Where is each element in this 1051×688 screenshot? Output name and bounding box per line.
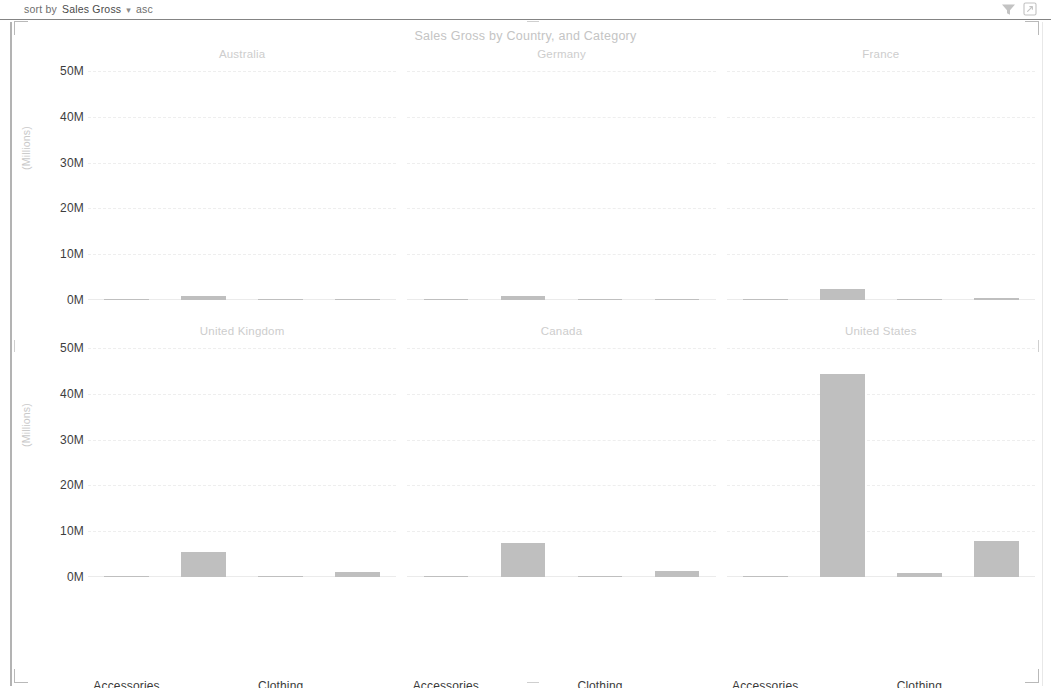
bar[interactable] <box>578 299 623 300</box>
bar[interactable] <box>897 299 942 300</box>
bar-slot <box>958 348 1035 577</box>
facet-panel[interactable]: Canada <box>407 325 715 577</box>
bar[interactable] <box>655 571 700 577</box>
bar[interactable] <box>335 299 380 300</box>
bar[interactable] <box>820 289 865 300</box>
facet-row: (Millions)50M40M30M20M10M0MUnited Kingdo… <box>0 325 1051 602</box>
bar-group <box>88 71 396 300</box>
y-axis-tick-label: 40M <box>60 110 84 124</box>
y-axis-tick-label: 10M <box>60 524 84 538</box>
y-axis-tick-label: 30M <box>60 156 84 170</box>
focus-mode-icon[interactable] <box>1023 2 1037 16</box>
bar[interactable] <box>501 296 546 300</box>
resize-handle-top-center[interactable] <box>527 21 539 22</box>
facet-panel[interactable]: Germany <box>407 48 715 300</box>
bar-group <box>407 71 715 300</box>
facet-plot-area <box>727 348 1035 577</box>
bar[interactable] <box>974 541 1019 577</box>
x-axis-tick-label: Clothing <box>242 679 319 688</box>
bar[interactable] <box>258 576 303 577</box>
bar-slot <box>242 71 319 300</box>
facet-row: (Millions)50M40M30M20M10M0MAustraliaGerm… <box>0 48 1051 325</box>
facet-panel[interactable]: United States <box>727 325 1035 577</box>
bar-slot <box>639 71 716 300</box>
y-axis-ticks: 50M40M30M20M10M0M <box>28 348 84 577</box>
bar-slot <box>242 348 319 577</box>
x-axis-tick-label: Accessories <box>407 679 484 688</box>
bar[interactable] <box>655 299 700 300</box>
bar[interactable] <box>104 576 149 577</box>
visual-header-icons <box>1001 2 1037 16</box>
bar-slot <box>165 71 242 300</box>
y-axis-tick-label: 50M <box>60 64 84 78</box>
facet-plot-area <box>88 71 396 300</box>
bar-slot <box>561 71 638 300</box>
x-axis-tick-label: Accessories <box>88 679 165 688</box>
sort-field-value[interactable]: Sales Gross <box>62 3 121 15</box>
bar[interactable] <box>104 299 149 300</box>
sort-direction-value[interactable]: asc <box>136 3 153 15</box>
sort-bar: sort bySales Gross▾asc <box>0 0 1051 20</box>
bar-slot <box>804 348 881 577</box>
chart-title: Sales Gross by Country, and Category <box>0 29 1051 43</box>
facet-plot-area <box>407 348 715 577</box>
x-axis-group: AccessoriesBikesClothingComponents <box>727 677 1035 688</box>
facet-plot-area <box>88 348 396 577</box>
bar-slot <box>804 71 881 300</box>
y-axis-tick-label: 20M <box>60 478 84 492</box>
bar[interactable] <box>335 572 380 577</box>
bar-slot <box>165 348 242 577</box>
bar-slot <box>407 348 484 577</box>
facet-panel[interactable]: United Kingdom <box>88 325 396 577</box>
y-axis-tick-label: 0M <box>67 293 84 307</box>
facet-panel-title: United States <box>727 325 1035 337</box>
bar[interactable] <box>897 573 942 577</box>
facet-plot-area <box>407 71 715 300</box>
facet-panel-title: United Kingdom <box>88 325 396 337</box>
sort-by-control[interactable]: sort bySales Gross▾asc <box>24 3 153 15</box>
facet-panel-title: France <box>727 48 1035 60</box>
bar[interactable] <box>501 543 546 577</box>
bar[interactable] <box>258 299 303 300</box>
bar-slot <box>88 348 165 577</box>
bar[interactable] <box>743 576 788 577</box>
facet-plot-area <box>727 71 1035 300</box>
bar[interactable] <box>424 299 469 300</box>
bar-slot <box>407 71 484 300</box>
sort-by-label: sort by <box>24 3 57 15</box>
bar-slot <box>319 71 396 300</box>
bar[interactable] <box>424 576 469 577</box>
y-axis-ticks: 50M40M30M20M10M0M <box>28 71 84 300</box>
bar-slot <box>561 348 638 577</box>
bar-slot <box>319 348 396 577</box>
facet-panel[interactable]: Australia <box>88 48 396 300</box>
bar[interactable] <box>578 576 623 577</box>
y-axis-tick-label: 40M <box>60 387 84 401</box>
x-axis-tick-label: Accessories <box>727 679 804 688</box>
facet-panel-title: Germany <box>407 48 715 60</box>
bar[interactable] <box>181 552 226 577</box>
bar-slot <box>881 71 958 300</box>
filter-icon[interactable] <box>1001 3 1016 16</box>
bar[interactable] <box>743 299 788 300</box>
chart-visual[interactable]: Sales Gross by Country, and Category (Mi… <box>0 20 1051 688</box>
facet-panel-title: Australia <box>88 48 396 60</box>
x-axis: AccessoriesBikesClothingComponentsAccess… <box>88 677 1035 688</box>
chevron-down-icon[interactable]: ▾ <box>126 5 131 15</box>
facet-panel[interactable]: France <box>727 48 1035 300</box>
y-axis-tick-label: 10M <box>60 247 84 261</box>
x-axis-tick-label: Clothing <box>881 679 958 688</box>
bar[interactable] <box>181 296 226 300</box>
bar[interactable] <box>974 298 1019 300</box>
bar-slot <box>727 348 804 577</box>
facet-panels: United KingdomCanadaUnited States <box>88 325 1035 577</box>
bar-slot <box>881 348 958 577</box>
y-axis-tick-label: 20M <box>60 201 84 215</box>
bar-slot <box>484 348 561 577</box>
small-multiples-grid: (Millions)50M40M30M20M10M0MAustraliaGerm… <box>0 48 1051 678</box>
y-axis-tick-label: 30M <box>60 433 84 447</box>
x-axis-group: AccessoriesBikesClothingComponents <box>407 677 715 688</box>
y-axis-tick-label: 50M <box>60 341 84 355</box>
bar[interactable] <box>820 374 865 577</box>
facet-panels: AustraliaGermanyFrance <box>88 48 1035 300</box>
